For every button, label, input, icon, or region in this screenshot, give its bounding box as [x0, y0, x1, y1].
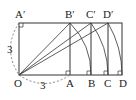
- label-side-left: 3: [7, 43, 13, 55]
- label-A: A: [66, 77, 74, 89]
- right-angle-A: [66, 71, 70, 75]
- label-side-bottom: 3: [40, 79, 46, 91]
- label-C: C: [104, 77, 111, 89]
- arc-C-prime-to-C: [91, 23, 108, 75]
- diagonal-OB-prime: [19, 23, 70, 75]
- arc-D-prime-to-D: [108, 23, 122, 75]
- diagonal-OC-prime: [19, 23, 91, 75]
- label-C-prime: C′: [86, 8, 96, 20]
- label-O: O: [14, 77, 22, 89]
- right-angle-B: [87, 71, 91, 75]
- label-D: D: [119, 77, 127, 89]
- label-B-prime: B′: [65, 8, 75, 20]
- right-angle-A-prime: [19, 23, 23, 27]
- diagonal-OD-prime: [19, 23, 108, 75]
- right-angle-D: [118, 71, 122, 75]
- label-B: B: [88, 77, 95, 89]
- label-D-prime: D′: [103, 8, 113, 20]
- label-A-prime: A′: [15, 8, 25, 20]
- right-angle-C: [104, 71, 108, 75]
- geometry-diagram: A′ B′ C′ D′ O A B C D 3 3: [0, 0, 136, 100]
